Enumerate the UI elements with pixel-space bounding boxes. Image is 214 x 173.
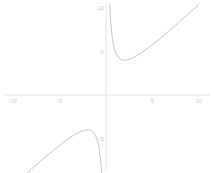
function-plot bbox=[0, 0, 214, 173]
chart-container: -10-5510-10-5-510 bbox=[0, 0, 214, 173]
y-tick-label: -5 bbox=[94, 136, 104, 142]
x-tick-label: 5 bbox=[151, 98, 154, 104]
curve-upper-branch bbox=[110, 5, 199, 61]
y-tick-label: -5 bbox=[94, 49, 104, 55]
y-tick-label: 10 bbox=[94, 5, 104, 11]
x-tick-label: 10 bbox=[196, 98, 203, 104]
x-tick-label: -10 bbox=[9, 98, 18, 104]
curve-lower-branch bbox=[13, 130, 102, 173]
x-tick-label: -5 bbox=[57, 98, 62, 104]
axes-group bbox=[4, 4, 210, 170]
